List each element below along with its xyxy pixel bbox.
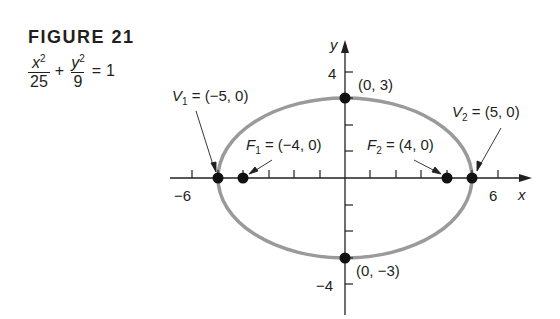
point-f2 xyxy=(442,173,453,184)
label-f2: F2 = (4, 0) xyxy=(367,136,434,156)
point-bottom xyxy=(340,253,351,264)
point-v1 xyxy=(213,173,224,184)
ellipse-graph: y x 4 −4 −6 6 V1 = (−5, 0) F1 = (−4, 0) … xyxy=(0,0,560,319)
y-axis-arrow-icon xyxy=(341,40,349,53)
label-bottom-point: (0, −3) xyxy=(356,262,400,279)
label-f1: F1 = (−4, 0) xyxy=(246,136,322,156)
leader-arrows xyxy=(196,111,501,174)
label-v1: V1 = (−5, 0) xyxy=(172,87,248,107)
x-tick-label-6: 6 xyxy=(489,187,497,204)
y-tick-label-neg4: −4 xyxy=(316,277,333,294)
point-v2 xyxy=(467,173,478,184)
x-axis-label: x xyxy=(517,186,526,203)
point-top xyxy=(340,93,351,104)
y-axis-label: y xyxy=(329,36,339,53)
y-tick-label-4: 4 xyxy=(328,65,336,82)
point-f1 xyxy=(238,173,249,184)
x-tick-label-neg6: −6 xyxy=(174,187,191,204)
label-top-point: (0, 3) xyxy=(358,76,393,93)
x-axis-arrow-icon xyxy=(519,174,532,182)
label-v2: V2 = (5, 0) xyxy=(452,103,520,123)
